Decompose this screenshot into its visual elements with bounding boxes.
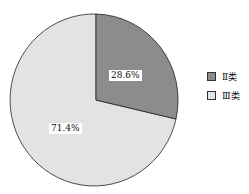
legend-swatch-icon (207, 72, 216, 81)
legend-swatch-icon (207, 91, 216, 100)
slice-class-2 (96, 14, 178, 119)
legend-label: Ⅱ类 (222, 70, 237, 83)
data-label-class-2: 28.6% (109, 70, 142, 81)
legend: Ⅱ类 Ⅲ类 (207, 71, 240, 109)
legend-item-class-3: Ⅲ类 (207, 90, 240, 101)
legend-label: Ⅲ类 (222, 89, 240, 102)
data-label-class-3: 71.4% (49, 123, 82, 134)
legend-item-class-2: Ⅱ类 (207, 71, 240, 82)
